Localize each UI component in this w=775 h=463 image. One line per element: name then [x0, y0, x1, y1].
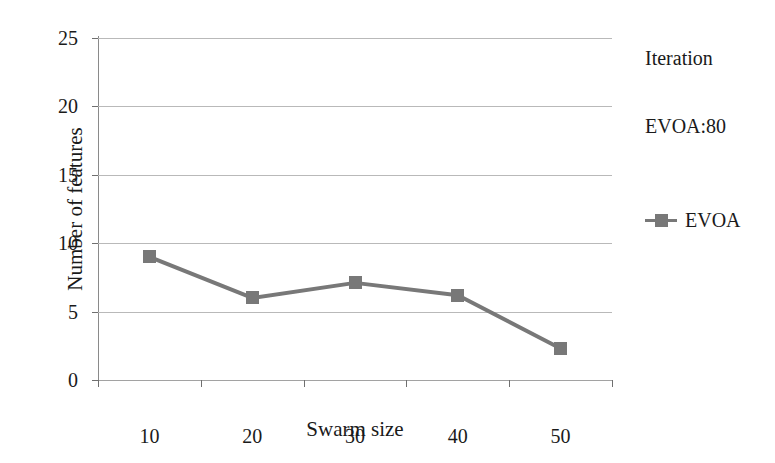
plot-area: 0510152025 1020304050 Number of features	[98, 38, 612, 380]
data-point-marker[interactable]	[143, 250, 156, 263]
x-tick-mark	[304, 380, 305, 387]
chart-figure: 0510152025 1020304050 Number of features…	[0, 0, 775, 463]
x-tick-mark	[509, 380, 510, 387]
series-line-evoa	[98, 38, 612, 380]
gridline	[98, 380, 612, 381]
data-point-marker[interactable]	[451, 289, 464, 302]
x-tick-mark	[201, 380, 202, 387]
y-axis-title: Number of features	[62, 38, 88, 380]
legend-square-marker-icon	[645, 213, 677, 227]
legend-title: Iteration	[645, 48, 771, 68]
x-tick-mark	[612, 380, 613, 387]
x-tick-mark	[406, 380, 407, 387]
legend-entry-label: EVOA	[685, 210, 741, 230]
data-point-marker[interactable]	[246, 291, 259, 304]
legend-entry-evoa[interactable]: EVOA	[645, 210, 771, 230]
x-tick-mark	[98, 380, 99, 387]
x-axis-title: Swarm size	[98, 419, 612, 440]
data-point-marker[interactable]	[349, 276, 362, 289]
legend-subtitle: EVOA:80	[645, 116, 771, 136]
data-point-marker[interactable]	[554, 342, 567, 355]
legend: Iteration EVOA:80 EVOA	[645, 48, 771, 230]
